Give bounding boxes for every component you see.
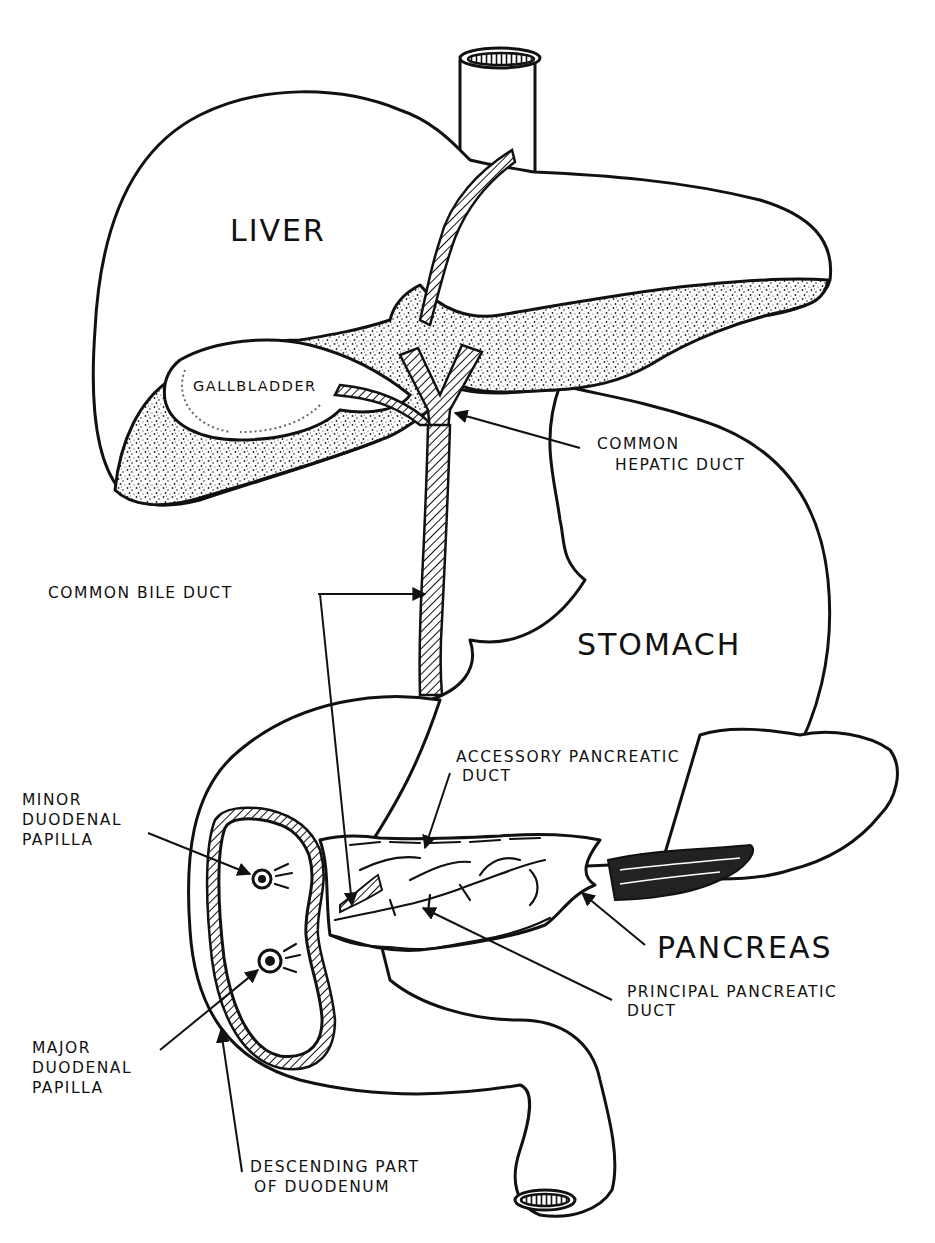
- pancreas-label: PANCREAS: [657, 930, 832, 965]
- anatomy-diagram: LIVER GALLBLADDER STOMACH PANCREAS COMMO…: [0, 0, 935, 1243]
- gallbladder-label: GALLBLADDER: [193, 378, 317, 394]
- stomach-label: STOMACH: [577, 627, 741, 662]
- principal-pancreatic-duct-label-1: PRINCIPAL PANCREATIC: [627, 983, 837, 1001]
- descending-duodenum-label-2: OF DUODENUM: [254, 1178, 390, 1196]
- minor-papilla-label-1: MINOR: [22, 791, 82, 809]
- major-papilla-label-2: DUODENAL: [32, 1059, 132, 1077]
- common-hepatic-duct-label-1: COMMON: [597, 435, 680, 453]
- principal-pancreatic-duct-label-2: DUCT: [627, 1002, 677, 1020]
- accessory-pancreatic-duct-label-2: DUCT: [462, 767, 512, 785]
- descending-duodenum-label-1: DESCENDING PART: [250, 1158, 419, 1176]
- accessory-pancreatic-duct-label-1: ACCESSORY PANCREATIC: [456, 748, 680, 766]
- major-papilla-label-1: MAJOR: [32, 1039, 91, 1057]
- minor-papilla-label-3: PAPILLA: [22, 831, 94, 849]
- common-hepatic-duct-label-2: HEPATIC DUCT: [615, 456, 746, 474]
- common-bile-duct-label: COMMON BILE DUCT: [48, 584, 233, 602]
- major-papilla-label-3: PAPILLA: [32, 1079, 104, 1097]
- minor-papilla-label-2: DUODENAL: [22, 811, 122, 829]
- liver-label: LIVER: [230, 213, 326, 248]
